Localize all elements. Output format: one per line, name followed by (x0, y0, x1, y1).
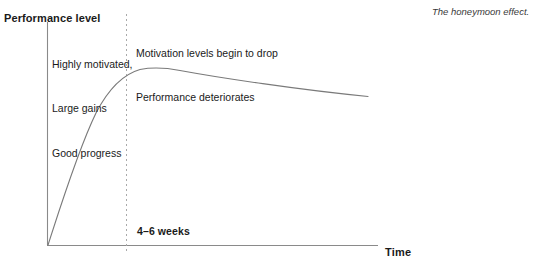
phase1-annotation-line-2: Large gains (52, 102, 133, 116)
phase1-annotation-line-3: Good progress (52, 147, 133, 161)
phase2-annotation-line-1: Motivation levels begin to drop (136, 47, 278, 61)
phase1-annotation-line-1: Highly motivated, (52, 58, 133, 72)
y-axis-title: Performance level (4, 11, 100, 26)
phase2-annotation-line-2: Performance deteriorates (136, 91, 278, 105)
figure-caption: The honeymoon effect. (432, 6, 529, 19)
honeymoon-effect-figure: Performance level Time Highly motivated,… (0, 0, 548, 267)
x-axis-title: Time (385, 245, 411, 260)
threshold-label: 4–6 weeks (137, 225, 190, 239)
phase1-annotation: Highly motivated, Large gains Good progr… (52, 30, 133, 191)
phase2-annotation: Motivation levels begin to drop Performa… (136, 19, 278, 136)
